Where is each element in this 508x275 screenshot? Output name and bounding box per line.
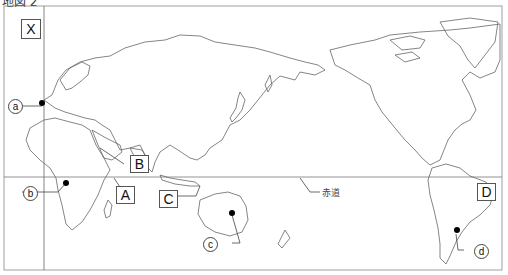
leader-C <box>178 186 200 196</box>
point-label-c: c <box>203 237 218 252</box>
scandinavia <box>60 62 90 90</box>
madagascar <box>104 200 112 218</box>
point-b <box>63 180 69 186</box>
point-c <box>229 210 235 216</box>
point-label-b: b <box>23 186 38 201</box>
africa <box>26 118 110 230</box>
eurasia-coast <box>44 35 325 172</box>
region-label-c: C <box>159 190 178 208</box>
world-map <box>0 0 508 275</box>
leader-c <box>232 215 240 243</box>
point-label-d: d <box>474 244 489 259</box>
point-label-a: a <box>8 99 23 114</box>
equator-label: 赤道 <box>322 186 340 199</box>
point-a <box>39 100 45 106</box>
region-label-d: D <box>477 183 496 201</box>
north-america <box>330 24 500 165</box>
leader-equator <box>300 178 320 192</box>
leader-B <box>100 148 124 164</box>
region-label-a: A <box>116 186 135 204</box>
region-label-x: X <box>21 19 41 39</box>
map-frame <box>4 6 502 270</box>
point-d <box>454 227 460 233</box>
region-label-b: B <box>130 155 149 173</box>
new-zealand <box>278 230 290 248</box>
australia <box>198 192 248 236</box>
arctic-islands <box>390 36 425 62</box>
leader-d <box>456 234 464 250</box>
